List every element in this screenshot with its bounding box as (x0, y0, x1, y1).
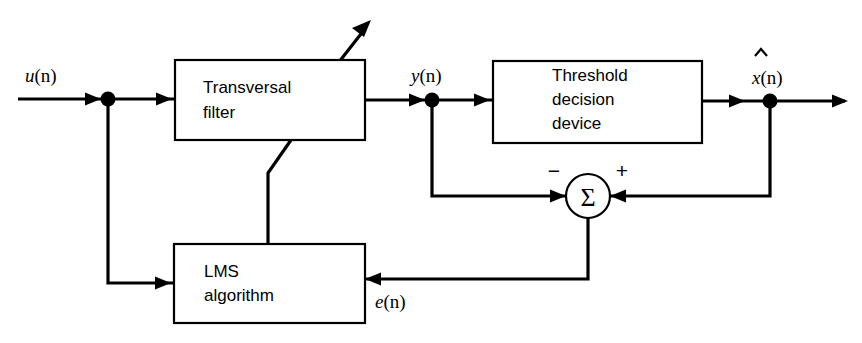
block-threshold-decision-device[interactable]: Threshold decision device (493, 61, 702, 143)
filter-output-wire-group (365, 93, 493, 108)
threshold-input-arrowhead (474, 94, 490, 107)
decision-output-hat-accent (755, 49, 767, 56)
plus-sign-label: + (616, 159, 628, 182)
lms-algorithm-label-line-1: LMS (204, 262, 239, 281)
signal-label-input: u(n) (25, 65, 57, 87)
decision-output-arrowhead (729, 95, 745, 108)
error-feedback-wire-group (365, 218, 588, 286)
input-arrowhead-left (85, 93, 101, 106)
system-output-arrowhead (832, 95, 848, 108)
transversal-filter-label-line-1: Transversal (203, 78, 291, 97)
decision-output-signal-label: x(n) (751, 67, 783, 89)
filter-output-arrowhead (409, 94, 425, 107)
block-transversal-filter[interactable]: Transversal filter (175, 60, 365, 140)
signal-label-error: e(n) (375, 291, 406, 313)
transversal-filter-box[interactable] (175, 60, 365, 140)
threshold-device-label-line-2: decision (552, 90, 614, 109)
lms-input-arrowhead (155, 277, 171, 290)
decision-output-wire-group (702, 94, 848, 109)
filter-output-signal-label: y(n) (409, 65, 442, 87)
block-diagram-canvas: Transversal filter Threshold decision de… (0, 0, 862, 343)
adaptation-arrow-shaft (339, 30, 364, 62)
block-lms-algorithm[interactable]: LMS algorithm (174, 244, 365, 323)
tap-weight-wire (268, 140, 291, 244)
input-arrowhead-into-filter (156, 93, 172, 106)
sum-minus-arrowhead (550, 190, 566, 203)
input-wire-group (18, 92, 175, 107)
signal-label-filter-output: y(n) (409, 65, 442, 87)
sigma-symbol: Σ (580, 183, 595, 212)
error-feedback-arrowhead (365, 273, 381, 286)
summing-junction[interactable]: Σ − + (548, 159, 628, 218)
error-feedback-wire (365, 218, 588, 279)
signal-label-decision-output: x(n) (751, 49, 783, 89)
block-diagram-svg: Transversal filter Threshold decision de… (0, 0, 862, 343)
sum-plus-arrowhead (610, 190, 626, 203)
lms-algorithm-box[interactable] (174, 244, 365, 323)
lms-algorithm-label-line-2: algorithm (204, 286, 274, 305)
input-signal-label: u(n) (25, 65, 57, 87)
adaptation-arrow-group (339, 20, 371, 62)
tap-weight-wire-group (268, 140, 291, 244)
transversal-filter-label-line-2: filter (203, 103, 235, 122)
adaptation-arrowhead (352, 20, 371, 37)
minus-sign-label: − (548, 159, 560, 182)
error-signal-label: e(n) (375, 291, 406, 313)
input-tap-to-lms-wire (108, 99, 174, 283)
threshold-device-label-line-3: device (552, 114, 601, 133)
input-tap-to-lms-wire-group (108, 99, 174, 290)
threshold-device-label-line-1: Threshold (552, 66, 628, 85)
